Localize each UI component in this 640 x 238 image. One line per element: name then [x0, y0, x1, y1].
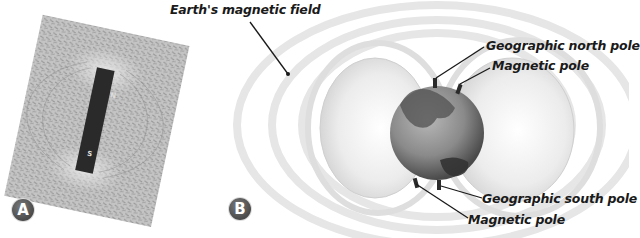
- geo-north-marker: [433, 78, 437, 88]
- earth-magnetic-field-label: Earth's magnetic field: [170, 2, 320, 17]
- geo-south-marker: [437, 180, 441, 190]
- magnetic-south-pole-label: Magnetic pole: [468, 212, 565, 227]
- panel-a-badge: A: [12, 199, 34, 221]
- geographic-south-pole-label: Geographic south pole: [482, 191, 637, 206]
- panel-b-badge: B: [229, 198, 251, 220]
- magnetic-north-pole-label: Magnetic pole: [492, 58, 589, 73]
- mag-south-marker: [413, 178, 419, 189]
- geographic-north-pole-label: Geographic north pole: [486, 38, 640, 53]
